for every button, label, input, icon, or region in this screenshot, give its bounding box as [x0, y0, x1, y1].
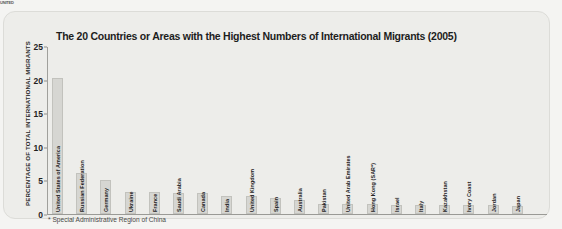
chart-panel: The 20 Countries or Areas with the Highe… [3, 11, 550, 219]
x-axis-line [47, 214, 547, 215]
y-axis-tick-label: 25 [34, 42, 43, 52]
bar-category-label: Australia [297, 188, 303, 212]
y-axis-tick-label: 15 [34, 109, 43, 119]
y-axis-tick-mark [44, 80, 47, 81]
plot-area: 0510152025 United States of AmericaRussi… [47, 47, 539, 215]
bar-category-label: Kazakhstan [442, 181, 448, 212]
y-axis-tick-label: 5 [38, 176, 43, 186]
bar-category-label: Hong Kong (SAR*) [370, 163, 376, 212]
y-axis-tick-mark [44, 114, 47, 115]
y-axis-tick-label: 10 [34, 143, 43, 153]
bar-category-label: Saudi Arabia [176, 178, 182, 212]
y-axis-tick-mark [44, 47, 47, 48]
bar-category-label: Canada [200, 192, 206, 212]
bar-category-label: Jordan [491, 193, 497, 212]
bar-category-label: Japan [515, 196, 521, 212]
y-axis-tick-label: 20 [34, 76, 43, 86]
bar-category-label: Germany [103, 188, 109, 212]
bar-category-label: Italy [418, 201, 424, 212]
bar-series: United States of AmericaRussian Federati… [48, 47, 539, 214]
bar-category-label: United States of America [55, 146, 61, 212]
bar-category-label: United Kingdom [249, 169, 255, 212]
chart-page: UNITED The 20 Countries or Areas with th… [0, 0, 562, 229]
bar-category-label: United Arab Emirates [345, 155, 351, 212]
bar-category-label: Spain [273, 197, 279, 212]
bar-category-label: Israel [394, 197, 400, 212]
y-axis-tick-label: 0 [38, 210, 43, 220]
footnote-text: * Special Administrative Region of China [48, 216, 166, 223]
y-axis-tick-mark [44, 215, 47, 216]
y-axis-tick-mark [44, 181, 47, 182]
bar-category-label: India [224, 199, 230, 212]
bar-category-label: Ukraine [128, 192, 134, 212]
chart-footnote: * Special Administrative Region of China [48, 216, 166, 223]
page-header-fragment: UNITED [0, 0, 34, 5]
bar-category-label: Ivory Coast [466, 182, 472, 212]
bar-category-label: France [152, 194, 158, 212]
y-axis-tick-mark [44, 147, 47, 148]
bar-category-label: Pakistan [321, 189, 327, 212]
y-axis-title: PERCENTAGE OF TOTAL INTERNATIONAL MIGRAN… [24, 39, 31, 209]
chart-title: The 20 Countries or Areas with the Highe… [56, 30, 526, 42]
bar-category-label: Russian Federation [79, 160, 85, 212]
